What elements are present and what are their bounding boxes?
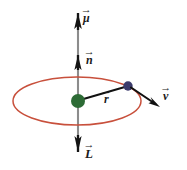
L-vector-symbol: L	[85, 146, 93, 161]
nucleus-dot	[71, 94, 85, 108]
n-vector-symbol: n	[86, 53, 93, 67]
magnetic-moment-label: → μ	[83, 12, 90, 24]
diagram-canvas	[0, 0, 187, 170]
v-vector-symbol: v	[163, 89, 168, 103]
r-vector-symbol: r	[104, 92, 109, 106]
velocity-vector-label: → v	[163, 90, 168, 102]
mu-vector-symbol: μ	[83, 11, 90, 25]
angular-momentum-label: → L	[85, 147, 93, 160]
radius-vector-label: → r	[104, 93, 109, 105]
physics-diagram-figure: → μ → n → r → v → L	[0, 0, 187, 170]
orbiting-particle-dot	[123, 81, 132, 90]
normal-vector-label: → n	[86, 54, 93, 66]
